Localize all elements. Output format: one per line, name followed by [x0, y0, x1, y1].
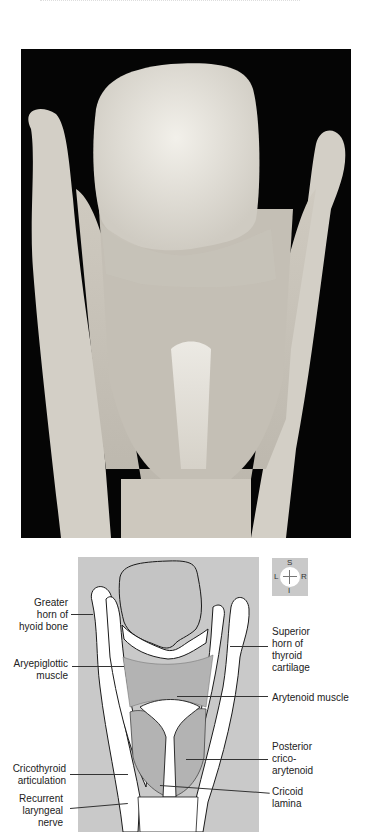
- orientation-compass: S I L R: [272, 558, 308, 596]
- compass-superior: S: [287, 559, 292, 567]
- label-line: Cricothyroid: [13, 763, 66, 775]
- compass-left: L: [274, 573, 278, 581]
- label-line: lamina: [272, 798, 303, 810]
- label-arytenoid-muscle: Arytenoid muscle: [272, 692, 349, 704]
- leader-line: [72, 666, 124, 667]
- label-line: laryngeal: [19, 805, 63, 817]
- label-line: muscle: [14, 670, 68, 682]
- label-cricothyroid-articulation: Cricothyroid articulation: [13, 763, 66, 787]
- label-line: horn of: [19, 609, 68, 621]
- label-line: arytenoid: [272, 765, 313, 777]
- label-line: horn of: [272, 638, 310, 650]
- label-line: Aryepiglottic: [14, 658, 68, 670]
- leader-line: [70, 774, 128, 775]
- label-line: articulation: [13, 775, 66, 787]
- leader-line: [230, 646, 268, 647]
- cutoff-text-fragment: [40, 0, 300, 5]
- label-cricoid-lamina: Cricoid lamina: [272, 786, 303, 810]
- compass-inferior: I: [288, 587, 290, 595]
- leader-line: [186, 759, 268, 760]
- leader-line: [177, 696, 268, 697]
- label-line: thyroid: [272, 650, 310, 662]
- label-line: Greater: [19, 597, 68, 609]
- label-line: hyoid bone: [19, 621, 68, 633]
- label-superior-horn-thyroid: Superior horn of thyroid cartilage: [272, 626, 310, 674]
- label-line: Recurrent: [19, 793, 63, 805]
- label-aryepiglottic-muscle: Aryepiglottic muscle: [14, 658, 68, 682]
- compass-right: R: [301, 573, 307, 581]
- specimen-photo: [21, 49, 351, 538]
- label-line: Arytenoid muscle: [272, 692, 349, 704]
- label-recurrent-laryngeal-nerve: Recurrent laryngeal nerve: [19, 793, 63, 829]
- label-line: Posterior: [272, 741, 313, 753]
- compass-horizontal-arrow-icon: [283, 576, 297, 577]
- label-line: Cricoid: [272, 786, 303, 798]
- compass-vertical-arrow-icon: [289, 570, 290, 584]
- label-greater-horn-hyoid: Greater horn of hyoid bone: [19, 597, 68, 633]
- compass-circle: [280, 567, 300, 587]
- label-line: crico-: [272, 753, 313, 765]
- label-line: Superior: [272, 626, 310, 638]
- label-line: cartilage: [272, 662, 310, 674]
- leader-line: [71, 614, 93, 615]
- label-posterior-cricoarytenoid: Posterior crico- arytenoid: [272, 741, 313, 777]
- label-line: nerve: [19, 817, 63, 829]
